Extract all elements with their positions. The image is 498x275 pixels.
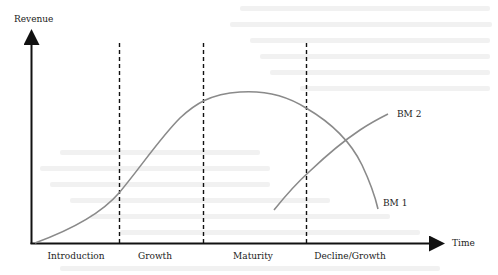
bm2-label: BM 2 — [397, 109, 421, 119]
phase-label-introduction: Introduction — [48, 251, 105, 261]
y-axis-label: Revenue — [14, 14, 53, 24]
phase-label-maturity: Maturity — [233, 251, 274, 261]
phase-dividers — [120, 43, 307, 243]
bm1-curve — [35, 92, 378, 243]
product-life-cycle-chart: Revenue Time Introduction Growth Maturit… — [0, 0, 498, 275]
phase-label-growth: Growth — [138, 251, 172, 261]
bm1-label: BM 1 — [383, 198, 407, 208]
phase-label-decline-growth: Decline/Growth — [314, 251, 386, 261]
x-axis-label: Time — [452, 238, 475, 248]
bm2-curve — [274, 114, 388, 210]
